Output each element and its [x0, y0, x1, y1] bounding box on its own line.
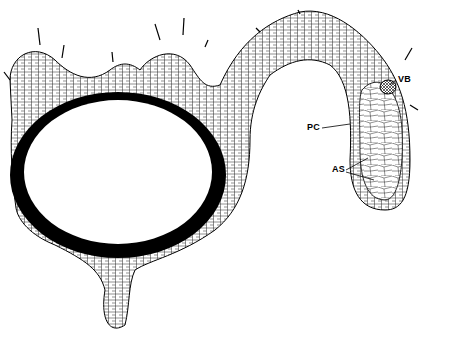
label-as: AS [332, 164, 345, 174]
tissue-diagram [0, 0, 451, 344]
label-pc: PC [307, 122, 320, 132]
sclerenchyma-ring [10, 92, 226, 258]
label-vb: VB [398, 74, 411, 84]
